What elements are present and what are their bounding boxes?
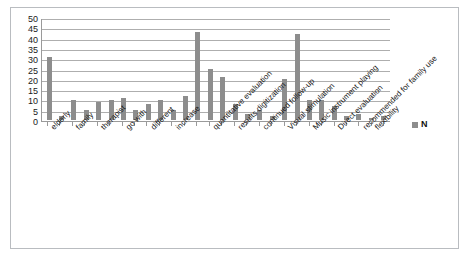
y-tick-label: 15 [28,87,38,96]
y-tick-label: 50 [28,15,38,24]
bar [96,102,101,120]
bar-slot [216,19,228,120]
bar [47,57,52,120]
y-tick-label: 30 [28,56,38,65]
y-tick-label: 45 [28,25,38,34]
y-tick-label: 25 [28,67,38,76]
y-tick-label: 10 [28,97,38,106]
bar [208,69,213,120]
y-tick-label: 35 [28,46,38,55]
x-tick [309,122,310,126]
bar-slot [68,19,80,120]
x-tick [47,122,48,126]
bar-slot [55,19,67,120]
y-tick-label: 40 [28,36,38,45]
x-tick [358,122,359,126]
bar-chart: 50454035302520151050 elderlyfamilytherap… [0,0,471,261]
bar [71,100,76,120]
bar-slot [204,19,216,120]
x-tick [72,122,73,126]
chart-legend: N [412,120,428,129]
bar [295,34,300,120]
bar-slot [43,19,55,120]
x-tick [196,122,197,126]
screenshot-root: 50454035302520151050 elderlyfamilytherap… [0,0,471,261]
bar-slot [142,19,154,120]
x-tick [334,122,335,126]
x-tick [209,122,210,126]
bar-slot [179,19,191,120]
x-tick [146,122,147,126]
x-tick [259,122,260,126]
bar-slot [105,19,117,120]
x-tick [234,122,235,126]
x-tick-slot [191,122,203,126]
x-tick [122,122,123,126]
bar-slot [130,19,142,120]
legend-label: N [421,120,428,129]
y-axis-labels: 50454035302520151050 [18,19,38,122]
bar-slot [155,19,167,120]
bar-slot [93,19,105,120]
legend-swatch-icon [412,122,418,128]
bar-slot [80,19,92,120]
y-tick-label: 5 [33,108,38,117]
x-tick [97,122,98,126]
x-tick [284,122,285,126]
x-tick [171,122,172,126]
y-tick-label: 0 [33,118,38,127]
y-tick-label: 20 [28,77,38,86]
